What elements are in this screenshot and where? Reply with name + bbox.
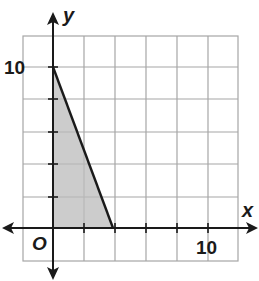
origin-label: O [32, 233, 47, 254]
y-axis-label: y [62, 4, 75, 26]
x-axis-label: x [241, 199, 254, 221]
coordinate-plane: y x 10 10 O [0, 0, 259, 281]
y-tick-label-10: 10 [4, 57, 25, 78]
x-tick-label-10: 10 [196, 237, 217, 258]
